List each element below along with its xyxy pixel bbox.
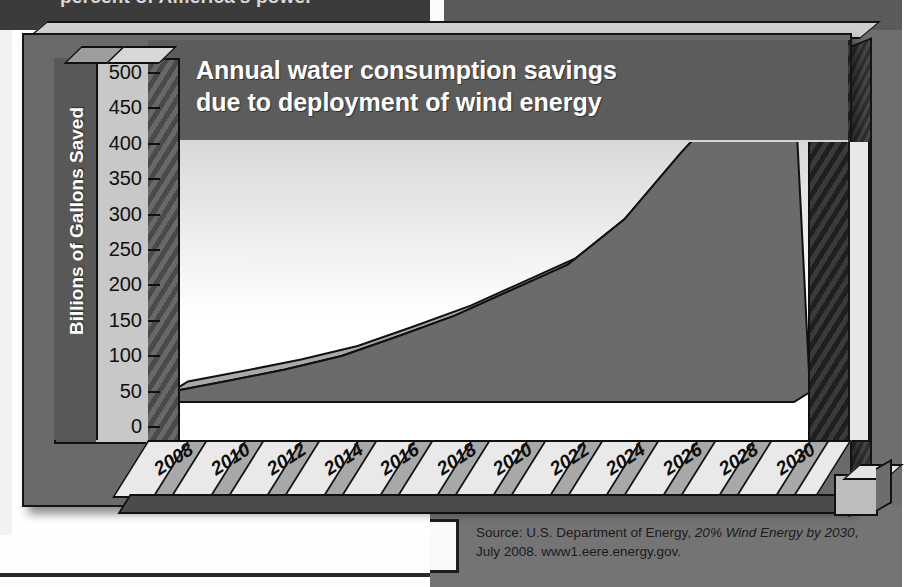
x-axis: 2008201020122014201620182020202220242026…	[148, 440, 872, 502]
chart-title-line-1: Annual water consumption savings	[196, 54, 617, 86]
y-tick-mark	[148, 249, 160, 251]
x-axis-corner-block	[834, 474, 878, 516]
y-tick-label: 350	[109, 167, 142, 190]
y-axis: Billions of Gallons Saved 05010015020025…	[54, 40, 150, 440]
clipped-headline-text: percent of America's power	[60, 0, 313, 8]
chart-title: Annual water consumption savings due to …	[196, 54, 617, 118]
caption-nub	[430, 519, 459, 573]
x-tick-label: 2024	[602, 439, 649, 480]
y-tick-mark	[148, 143, 160, 145]
x-tick-label: 2030	[772, 439, 819, 480]
x-tick-label: 2016	[376, 439, 423, 480]
x-tick-label: 2020	[489, 439, 536, 480]
x-tick-label: 2018	[433, 439, 480, 480]
y-axis-title: Billions of Gallons Saved	[66, 46, 88, 396]
source-caption-block: Source: U.S. Department of Energy, 20% W…	[430, 505, 902, 587]
y-tick-label: 200	[109, 273, 142, 296]
chart-title-line-2: due to deployment of wind energy	[196, 86, 617, 118]
y-tick-mark	[148, 284, 160, 286]
plot-area: Annual water consumption savings due to …	[148, 40, 848, 440]
chart-frame-outer: Annual water consumption savings due to …	[22, 33, 852, 507]
source-title-part-1: 20% Wind Energy	[695, 525, 803, 540]
x-tick-label: 2028	[715, 439, 762, 480]
y-tick-label: 400	[109, 131, 142, 154]
y-tick-label: 300	[109, 202, 142, 225]
y-tick-label: 450	[109, 96, 142, 119]
x-tick-label: 2022	[546, 439, 593, 480]
y-tick-label: 150	[109, 308, 142, 331]
y-tick-mark	[148, 178, 160, 180]
x-tick-label: 2026	[659, 439, 706, 480]
y-tick-mark	[148, 72, 160, 74]
chart-title-band: Annual water consumption savings due to …	[148, 40, 848, 142]
source-prefix: Source: U.S. Department of Energy,	[476, 525, 695, 540]
x-axis-tick-labels: 2008201020122014201620182020202220242026…	[148, 440, 872, 502]
y-tick-mark	[148, 391, 160, 393]
y-tick-label: 50	[120, 379, 142, 402]
page-gutter-left	[0, 30, 12, 535]
y-tick-mark	[148, 426, 160, 428]
y-tick-label: 250	[109, 238, 142, 261]
y-tick-mark	[148, 214, 160, 216]
y-tick-mark	[148, 355, 160, 357]
y-axis-tick-labels: 050100150200250300350400450500	[98, 58, 146, 440]
x-tick-label: 2008	[150, 439, 197, 480]
page-rule	[0, 573, 430, 577]
corner-block-side	[876, 459, 892, 512]
source-caption-text: Source: U.S. Department of Energy, 20% W…	[476, 523, 886, 561]
y-tick-mark	[148, 320, 160, 322]
y-tick-label: 0	[131, 415, 142, 438]
x-tick-label: 2012	[263, 439, 310, 480]
x-tick-label: 2010	[207, 439, 254, 480]
plot-right-light-panel	[848, 142, 870, 442]
y-tick-mark	[148, 107, 160, 109]
y-tick-label: 100	[109, 344, 142, 367]
source-title-part-2: by 2030	[807, 525, 855, 540]
x-tick-label: 2014	[320, 439, 367, 480]
page-background-bottom-left	[0, 535, 430, 587]
chart: Annual water consumption savings due to …	[22, 33, 870, 513]
y-axis-tick-marks	[148, 58, 162, 440]
